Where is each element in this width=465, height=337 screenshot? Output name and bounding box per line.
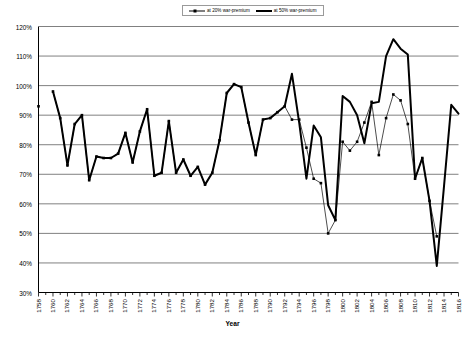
x-tick-label: 1808 [397, 299, 404, 313]
series-markers-20pct [37, 83, 438, 238]
x-tick-label: 1786 [237, 299, 244, 313]
x-tick-label: 1772 [136, 299, 143, 313]
x-tick-label: 1812 [426, 299, 433, 313]
legend-entry-20pct: at 20% war-premium [189, 7, 250, 15]
y-tick-label: 60% [2, 200, 32, 207]
legend-thick-line-icon [256, 7, 272, 15]
x-tick-label: 1806 [382, 299, 389, 313]
x-tick-label: 1792 [281, 299, 288, 313]
series-line-50pct [53, 39, 459, 266]
x-tick-label: 1766 [92, 299, 99, 313]
legend-entry-50pct: at 50% war-premium [256, 7, 317, 15]
y-tick-label: 110% [2, 53, 32, 60]
x-tick-label: 1758 [35, 299, 42, 313]
x-tick-label: 1796 [310, 299, 317, 313]
x-tick-label: 1768 [107, 299, 114, 313]
axis-lines [39, 27, 459, 293]
x-tick-label: 1770 [121, 299, 128, 313]
x-tick-label: 1774 [150, 299, 157, 313]
x-tick-label: 1776 [165, 299, 172, 313]
x-tick-label: 1784 [223, 299, 230, 313]
x-axis-title: Year [0, 320, 465, 327]
x-tick-label: 1798 [324, 299, 331, 313]
y-tick-label: 100% [2, 82, 32, 89]
chart-legend: at 20% war-premium at 50% war-premium [182, 5, 324, 16]
legend-label-20pct: at 20% war-premium [207, 8, 250, 13]
gridlines [39, 27, 459, 263]
x-tick-label: 1794 [295, 299, 302, 313]
legend-marker-line-icon [189, 7, 205, 15]
x-tick-label: 1764 [78, 299, 85, 313]
x-tick-marks [39, 293, 459, 297]
x-tick-label: 1810 [411, 299, 418, 313]
plot-area [0, 0, 465, 337]
x-tick-label: 1800 [339, 299, 346, 313]
legend-label-50pct: at 50% war-premium [274, 8, 317, 13]
x-tick-label: 1760 [49, 299, 56, 313]
chart-container: at 20% war-premium at 50% war-premium 12… [0, 0, 465, 337]
y-tick-label: 80% [2, 141, 32, 148]
x-tick-label: 1804 [368, 299, 375, 313]
x-tick-label: 1780 [194, 299, 201, 313]
x-tick-label: 1778 [179, 299, 186, 313]
x-tick-label: 1782 [208, 299, 215, 313]
y-tick-label: 90% [2, 112, 32, 119]
y-tick-label: 120% [2, 23, 32, 30]
x-tick-label: 1788 [252, 299, 259, 313]
y-tick-label: 40% [2, 259, 32, 266]
x-tick-label: 1814 [440, 299, 447, 313]
x-tick-label: 1816 [455, 299, 462, 313]
x-tick-label: 1790 [266, 299, 273, 313]
x-tick-label: 1762 [63, 299, 70, 313]
x-tick-label: 1802 [353, 299, 360, 313]
y-tick-label: 50% [2, 230, 32, 237]
y-tick-label: 30% [2, 289, 32, 296]
y-tick-label: 70% [2, 171, 32, 178]
